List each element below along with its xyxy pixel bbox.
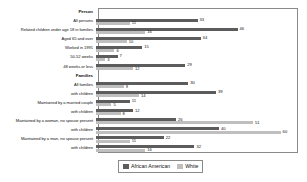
legend-item-white: White xyxy=(177,164,198,170)
category-label: All families xyxy=(0,83,96,88)
bar-wh xyxy=(96,22,130,25)
chart-rows: PersonAll persons3311Related children un… xyxy=(0,8,298,153)
bar-value-label: 39 xyxy=(218,90,223,94)
chart-data-row: 50-52 weeks73 xyxy=(0,53,298,62)
category-label: Maintained by a woman, no spouse present xyxy=(0,119,96,124)
category-label: Related children under age 18 in familie… xyxy=(0,28,96,33)
category-label: with children xyxy=(0,128,96,133)
legend-label-african-american: African American xyxy=(131,164,170,170)
category-label: 48 weeks or less xyxy=(0,65,96,70)
category-label: with children xyxy=(0,146,96,151)
chart-data-row: Worked in 1991156 xyxy=(0,44,298,53)
bar-value-label: 9 xyxy=(126,85,128,89)
category-label: Worked in 1991 xyxy=(0,46,96,51)
category-label: Maintained by a man, no spouse present xyxy=(0,137,96,142)
bar-cell xyxy=(96,71,298,80)
bar-wh xyxy=(96,112,121,115)
group-header-label: Person xyxy=(0,10,96,15)
bar-value-label: 46 xyxy=(240,27,245,31)
bar-cell xyxy=(96,8,298,17)
chart-data-row: Maintained by a married couple115 xyxy=(0,98,298,107)
bar-value-label: 3 xyxy=(107,58,109,62)
bar-wh xyxy=(96,140,130,143)
category-label: Aged 65 and over xyxy=(0,37,96,42)
category-label: All persons xyxy=(0,19,96,24)
bar-wh xyxy=(96,131,281,134)
category-label: with children xyxy=(0,92,96,97)
chart-group-header-row: Person xyxy=(0,8,298,17)
chart-legend: African American White xyxy=(118,160,203,173)
chart-data-row: Maintained by a woman, no spouse present… xyxy=(0,117,298,126)
bar-cell: 3216 xyxy=(96,144,298,153)
bar-value-label: 5 xyxy=(113,103,115,107)
bar-value-label: 32 xyxy=(196,145,201,149)
bar-value-label: 11 xyxy=(132,99,136,103)
chart-data-row: Aged 65 and over3410 xyxy=(0,35,298,44)
bar-value-label: 33 xyxy=(200,18,205,22)
chart-data-row: All persons3311 xyxy=(0,17,298,26)
bar-value-label: 15 xyxy=(144,45,149,49)
bar-value-label: 16 xyxy=(147,30,152,34)
bar-value-label: 16 xyxy=(147,148,152,152)
chart-data-row: with children128 xyxy=(0,108,298,117)
bar-cell: 128 xyxy=(96,108,298,117)
bar-value-label: 11 xyxy=(132,139,136,143)
bar-value-label: 8 xyxy=(123,112,125,116)
bar-value-label: 34 xyxy=(203,36,208,40)
bar-value-label: 29 xyxy=(187,63,192,67)
bar-value-label: 12 xyxy=(135,67,140,71)
bar-wh xyxy=(96,67,133,70)
grouped-bar-chart: PersonAll persons3311Related children un… xyxy=(0,0,307,182)
bar-wh xyxy=(96,40,127,43)
bar-cell: 309 xyxy=(96,80,298,89)
bar-value-label: 6 xyxy=(116,49,118,53)
legend-swatch-african-american xyxy=(123,164,129,170)
bar-cell: 115 xyxy=(96,98,298,107)
legend-label-white: White xyxy=(185,164,198,170)
bar-value-label: 14 xyxy=(141,94,146,98)
legend-item-african-american: African American xyxy=(123,164,170,170)
chart-data-row: 48 weeks or less2912 xyxy=(0,62,298,71)
category-label: Maintained by a married couple xyxy=(0,101,96,106)
category-label: with children xyxy=(0,110,96,115)
bar-cell: 3914 xyxy=(96,89,298,98)
bar-cell: 4616 xyxy=(96,26,298,35)
bar-value-label: 7 xyxy=(120,54,122,58)
bar-wh xyxy=(96,85,124,88)
bar-cell: 3410 xyxy=(96,35,298,44)
bar-wh xyxy=(96,49,114,52)
chart-data-row: with children4060 xyxy=(0,126,298,135)
bar-cell: 156 xyxy=(96,44,298,53)
bar-cell: 2651 xyxy=(96,117,298,126)
bar-cell: 73 xyxy=(96,53,298,62)
chart-data-row: with children3216 xyxy=(0,144,298,153)
bar-value-label: 22 xyxy=(166,136,171,140)
bar-wh xyxy=(96,58,105,61)
bar-cell: 2211 xyxy=(96,135,298,144)
chart-data-row: Related children under age 18 in familie… xyxy=(0,26,298,35)
bar-wh xyxy=(96,31,145,34)
bar-cell: 4060 xyxy=(96,126,298,135)
category-label: 50-52 weeks xyxy=(0,55,96,60)
bar-value-label: 12 xyxy=(135,109,140,113)
chart-data-row: All families309 xyxy=(0,80,298,89)
bar-value-label: 51 xyxy=(255,121,260,125)
bar-value-label: 11 xyxy=(132,21,136,25)
bar-value-label: 60 xyxy=(283,130,288,134)
bar-value-label: 10 xyxy=(129,40,134,44)
bar-wh xyxy=(96,94,139,97)
bar-cell: 2912 xyxy=(96,62,298,71)
group-header-label: Families xyxy=(0,74,96,79)
bar-wh xyxy=(96,149,145,152)
bar-cell: 3311 xyxy=(96,17,298,26)
chart-data-row: Maintained by a man, no spouse present22… xyxy=(0,135,298,144)
chart-group-header-row: Families xyxy=(0,71,298,80)
legend-swatch-white xyxy=(177,164,183,170)
bar-value-label: 30 xyxy=(190,81,195,85)
bar-wh xyxy=(96,121,253,124)
bar-wh xyxy=(96,103,111,106)
chart-data-row: with children3914 xyxy=(0,89,298,98)
